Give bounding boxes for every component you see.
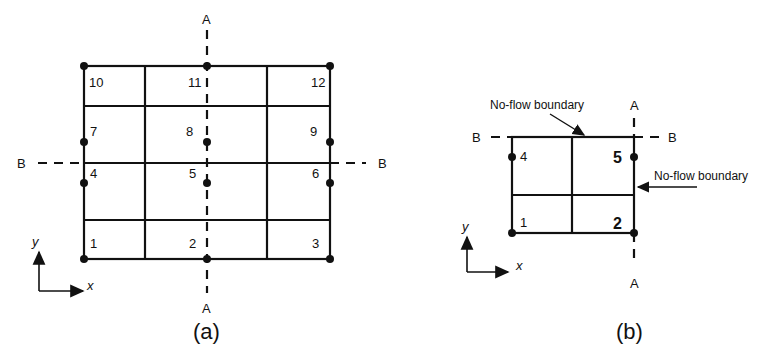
cell-label: 9 (310, 124, 317, 139)
section-label: A (630, 276, 639, 291)
caption-b: (b) (616, 319, 643, 344)
cell-label: 3 (312, 236, 319, 251)
noflow-label-right: No-flow boundary (654, 169, 748, 183)
section-label: B (668, 130, 677, 145)
cell-label: 1 (90, 236, 97, 251)
cell-label: 6 (312, 166, 319, 181)
caption-a: (a) (193, 319, 220, 344)
section-label: B (17, 156, 26, 171)
axes-a (39, 252, 83, 291)
section-label: A (202, 12, 211, 27)
cell-label: 11 (188, 75, 202, 90)
axis-y-label: y (461, 219, 470, 234)
cell-label: 12 (311, 75, 325, 90)
section-label: A (202, 301, 211, 316)
axes-b (467, 237, 508, 272)
cell-label: 10 (89, 75, 103, 90)
axis-x-label: x (515, 258, 523, 273)
section-label: A (630, 98, 639, 113)
cell-label: 2 (613, 215, 622, 232)
section-label: B (472, 130, 481, 145)
cell-label: 4 (520, 149, 527, 164)
axis-y-label: y (31, 234, 40, 249)
cell-label: 2 (189, 236, 196, 251)
cell-label: 5 (189, 166, 196, 181)
cell-label: 1 (520, 215, 527, 230)
axis-x-label: x (86, 278, 94, 293)
cell-label: 7 (90, 124, 97, 139)
figure-canvas: 1 2 3 4 5 6 7 8 9 10 11 12 A A B B y x (… (0, 0, 782, 359)
cell-label: 8 (186, 124, 193, 139)
cell-label: 5 (613, 149, 622, 166)
cell-label: 4 (90, 166, 97, 181)
section-label: B (378, 156, 387, 171)
noflow-label-top: No-flow boundary (490, 98, 584, 112)
